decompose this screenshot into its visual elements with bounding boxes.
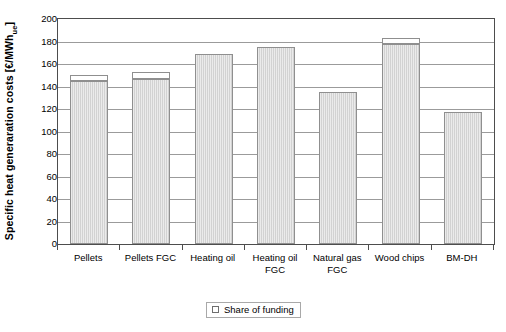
- bar-group: [307, 19, 369, 244]
- x-axis-tick-mark: [57, 245, 58, 250]
- y-axis-tick-label: 180: [31, 35, 57, 46]
- x-axis-tick-mark: [368, 245, 369, 250]
- y-axis-tick-label: 80: [31, 148, 57, 159]
- bar-group: [58, 19, 120, 244]
- y-axis-title: Specific heat generaration costs [€/MWhu…: [0, 0, 22, 262]
- bar-group: [245, 19, 307, 244]
- y-axis-title-suffix: ]: [3, 22, 15, 26]
- bar-group: [120, 19, 182, 244]
- plot-area: [57, 18, 495, 245]
- y-axis-tick-label: 0: [31, 238, 57, 249]
- bar-segment-cost: [195, 54, 233, 244]
- y-axis-tick-label: 120: [31, 103, 57, 114]
- bar-segment-cost: [444, 112, 482, 244]
- x-axis-ticks: [57, 245, 495, 251]
- y-axis-tick-label: 60: [31, 170, 57, 181]
- legend-swatch-share-of-funding: [212, 306, 219, 313]
- x-axis-tick-mark: [306, 245, 307, 250]
- x-axis-tick-label: Wood chips: [368, 252, 430, 264]
- x-axis-tick-label: Heating oil FGC: [244, 252, 306, 276]
- bar-segment-share-of-funding: [132, 72, 170, 79]
- y-axis-tick-label: 200: [31, 13, 57, 24]
- bar-group: [183, 19, 245, 244]
- bar-segment-cost: [319, 92, 357, 244]
- x-axis-tick-mark: [493, 245, 494, 250]
- x-axis-tick-mark: [244, 245, 245, 250]
- chart-legend: Share of funding: [206, 302, 301, 318]
- y-axis-title-subscript: ue: [10, 25, 19, 34]
- x-axis-tick-label: Pellets: [57, 252, 119, 264]
- x-axis-tick-label: Natural gas FGC: [306, 252, 368, 276]
- x-axis-tick-mark: [182, 245, 183, 250]
- bar-segment-cost: [70, 81, 108, 244]
- x-axis-tick-mark: [431, 245, 432, 250]
- x-axis-tick-label: BM-DH: [431, 252, 493, 264]
- bar-segment-cost: [382, 44, 420, 244]
- y-axis: 020406080100120140160180200: [22, 18, 57, 245]
- x-axis-tick-label: Pellets FGC: [119, 252, 181, 264]
- y-axis-tick-label: 40: [31, 193, 57, 204]
- bar-segment-cost: [257, 47, 295, 244]
- bar-group: [369, 19, 431, 244]
- bar-segment-share-of-funding: [70, 75, 108, 81]
- x-axis-tick-mark: [119, 245, 120, 250]
- legend-label-share-of-funding: Share of funding: [224, 304, 294, 315]
- bar-segment-cost: [132, 79, 170, 244]
- y-axis-tick-label: 20: [31, 215, 57, 226]
- bar-group: [432, 19, 494, 244]
- x-axis-labels: PelletsPellets FGCHeating oilHeating oil…: [57, 252, 495, 294]
- chart-container: Specific heat generaration costs [€/MWhu…: [0, 0, 506, 332]
- y-axis-tick-label: 140: [31, 80, 57, 91]
- y-axis-tick-label: 160: [31, 58, 57, 69]
- bar-segment-share-of-funding: [382, 38, 420, 44]
- y-axis-title-text: Specific heat generaration costs [€/MWh: [3, 34, 15, 240]
- x-axis-tick-label: Heating oil: [182, 252, 244, 264]
- y-axis-tick-label: 100: [31, 125, 57, 136]
